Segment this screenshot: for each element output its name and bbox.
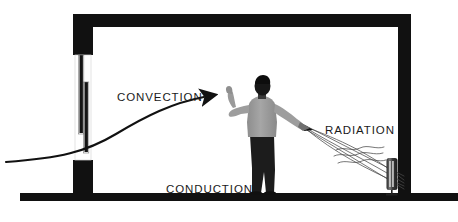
label-convection: CONVECTION xyxy=(117,91,203,103)
person-shoe-right xyxy=(264,191,276,195)
label-radiation: RADIATION xyxy=(325,124,395,136)
diagram-canvas: CONVECTION RADIATION CONDUCTION xyxy=(0,0,458,222)
heater-body xyxy=(387,158,398,190)
heater-element-2 xyxy=(392,161,394,187)
window-left-wall xyxy=(75,55,91,160)
person-torso xyxy=(247,96,277,137)
ceiling-slab xyxy=(73,14,411,27)
heater-stem xyxy=(391,190,393,194)
left-wall-upper-pier xyxy=(73,14,93,55)
label-conduction: CONDUCTION xyxy=(166,183,253,195)
left-wall-lower-pier xyxy=(73,160,93,193)
window-glazing-outer xyxy=(80,55,83,133)
heater-base xyxy=(386,194,398,196)
right-wall xyxy=(398,14,411,193)
heater-element-1 xyxy=(389,161,391,187)
window-glazing-inner xyxy=(85,82,88,152)
heat-transfer-diagram: CONVECTION RADIATION CONDUCTION xyxy=(0,0,458,222)
